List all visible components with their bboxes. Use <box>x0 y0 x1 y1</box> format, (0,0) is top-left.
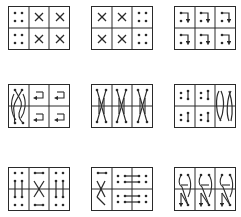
panel-1-grid <box>8 6 70 50</box>
panel-6-grid <box>174 84 236 128</box>
panel-8 <box>91 167 153 211</box>
panel-7-grid <box>8 167 70 211</box>
panel-4 <box>8 84 70 128</box>
panel-9 <box>174 167 236 211</box>
panel-7 <box>8 167 70 211</box>
panel-5 <box>91 84 153 128</box>
panel-3-grid <box>174 6 236 50</box>
panel-8-grid <box>91 167 153 211</box>
panel-2 <box>91 6 153 50</box>
panel-2-grid <box>91 6 153 50</box>
panel-4-grid <box>8 84 70 128</box>
panel-3 <box>174 6 236 50</box>
panel-6 <box>174 84 236 128</box>
panel-9-grid <box>174 167 236 211</box>
panel-1 <box>8 6 70 50</box>
panel-5-grid <box>91 84 153 128</box>
